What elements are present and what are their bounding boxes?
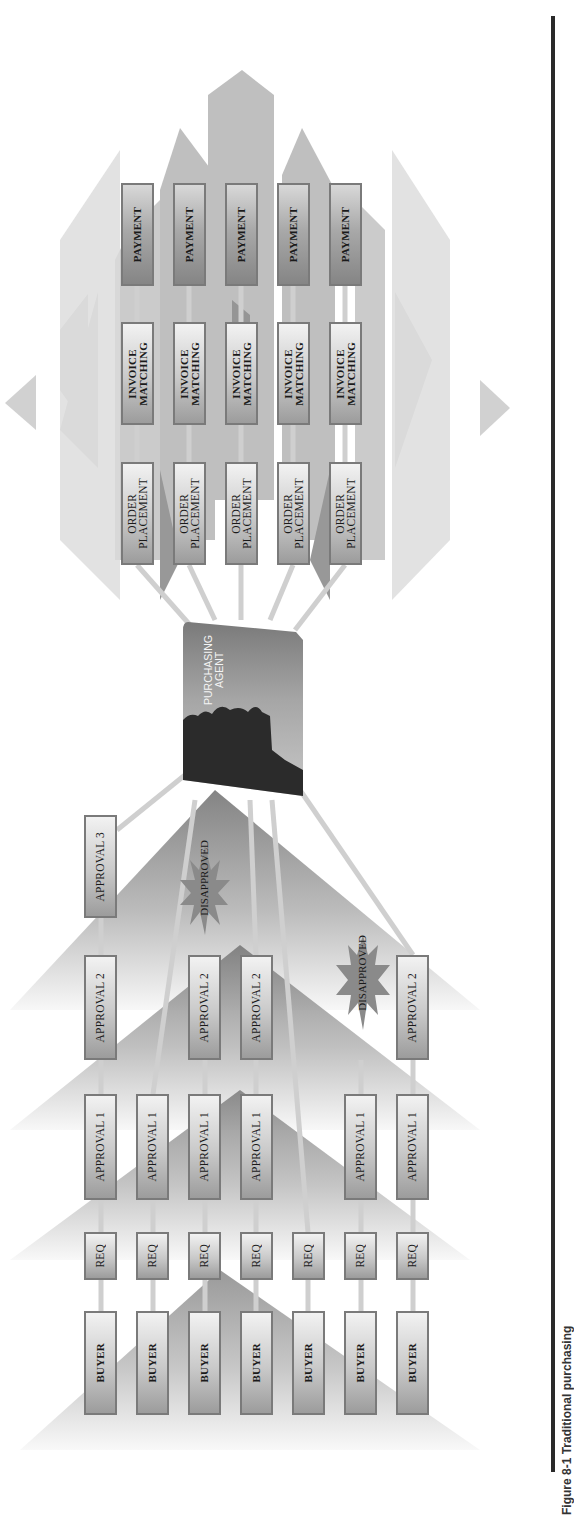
buyer-box: BUYER <box>84 1311 117 1415</box>
invoice-matching-box: INVOICE MATCHING <box>277 322 310 425</box>
req-box: REQ <box>84 1232 117 1280</box>
approval-1-box: APPROVAL 1 <box>344 1094 377 1200</box>
req-box: REQ <box>240 1232 273 1280</box>
req-box: REQ <box>136 1232 169 1280</box>
caption-rule <box>551 16 555 1472</box>
invoice-matching-box: INVOICE MATCHING <box>173 322 206 425</box>
order-placement-box: ORDER PLACEMENT <box>225 462 258 565</box>
payment-box: PAYMENT <box>329 183 362 286</box>
approval-1-box: APPROVAL 1 <box>136 1094 169 1200</box>
approval-2-box: APPROVAL 2 <box>188 955 221 1060</box>
order-placement-box: ORDER PLACEMENT <box>121 462 154 565</box>
approval-1-box: APPROVAL 1 <box>84 1094 117 1200</box>
approval-2-box: APPROVAL 2 <box>240 955 273 1060</box>
purchasing-agent: PURCHASING AGENT <box>183 620 303 796</box>
buyer-box: BUYER <box>136 1311 169 1415</box>
approval-3-box: APPROVAL 3 <box>84 815 117 918</box>
order-placement-box: ORDER PLACEMENT <box>277 462 310 565</box>
approval-1-box: APPROVAL 1 <box>240 1094 273 1200</box>
payment-box: PAYMENT <box>277 183 310 286</box>
order-placement-box: ORDER PLACEMENT <box>329 462 362 565</box>
order-placement-box: ORDER PLACEMENT <box>173 462 206 565</box>
purchasing-diagram: PAYMENT PAYMENT PAYMENT PAYMENT PAYMENT … <box>0 0 576 1519</box>
payment-box: PAYMENT <box>173 183 206 286</box>
figure-caption: Figure 8-1 Traditional purchasing <box>560 1290 576 1515</box>
disapproved-label: DISAPPROVED <box>356 935 368 1011</box>
approval-2-box: APPROVAL 2 <box>396 955 429 1060</box>
approval-2-box: APPROVAL 2 <box>84 955 117 1060</box>
approval-1-box: APPROVAL 1 <box>396 1094 429 1200</box>
req-box: REQ <box>292 1232 325 1280</box>
req-box: REQ <box>396 1232 429 1280</box>
disapproved-label: DISAPPROVED <box>198 840 210 916</box>
payment-box: PAYMENT <box>225 183 258 286</box>
buyer-box: BUYER <box>240 1311 273 1415</box>
approval-1-box: APPROVAL 1 <box>188 1094 221 1200</box>
payment-box: PAYMENT <box>121 183 154 286</box>
invoice-matching-box: INVOICE MATCHING <box>225 322 258 425</box>
buyer-box: BUYER <box>292 1311 325 1415</box>
buyer-box: BUYER <box>188 1311 221 1415</box>
buyer-box: BUYER <box>344 1311 377 1415</box>
invoice-matching-box: INVOICE MATCHING <box>121 322 154 425</box>
invoice-matching-box: INVOICE MATCHING <box>329 322 362 425</box>
buyer-box: BUYER <box>396 1311 429 1415</box>
req-box: REQ <box>344 1232 377 1280</box>
req-box: REQ <box>188 1232 221 1280</box>
